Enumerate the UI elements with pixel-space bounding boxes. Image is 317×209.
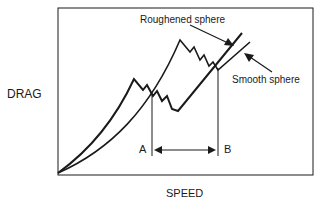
roughened-sphere-label: Roughened sphere [140, 15, 225, 25]
smooth-sphere-label: Smooth sphere [232, 75, 300, 85]
x-axis-label: SPEED [166, 188, 203, 199]
smooth-callout-line [250, 57, 272, 72]
roughened-sphere-curve [58, 33, 242, 173]
marker-a-label: A [139, 144, 146, 155]
roughened-callout-line [190, 25, 228, 43]
arrowhead-left-icon [154, 146, 162, 154]
y-axis-label: DRAG [7, 88, 42, 100]
arrowhead-right-icon [208, 146, 216, 154]
marker-b-label: B [224, 144, 231, 155]
drag-speed-diagram [0, 0, 317, 209]
smooth-sphere-curve [58, 40, 250, 173]
smooth-callout-arrowhead-icon [244, 53, 254, 62]
